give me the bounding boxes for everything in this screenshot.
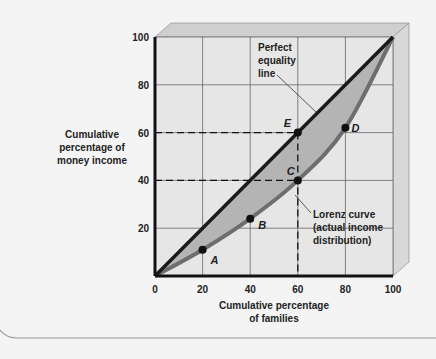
point-b xyxy=(246,215,254,223)
lorenz-annotation: Lorenz curve xyxy=(313,209,376,220)
box-right-face xyxy=(393,23,409,276)
point-label: B xyxy=(258,219,266,231)
point-label: E xyxy=(284,117,292,129)
y-tick: 20 xyxy=(138,223,150,234)
y-axis-label: percentage of xyxy=(59,142,125,153)
x-tick: 0 xyxy=(152,284,158,295)
box-top-face xyxy=(155,23,409,37)
point-e xyxy=(294,129,302,137)
x-tick: 60 xyxy=(292,284,304,295)
x-axis-label: Cumulative percentage xyxy=(219,300,329,311)
y-tick: 80 xyxy=(138,80,150,91)
x-tick: 20 xyxy=(197,284,209,295)
point-label: A xyxy=(210,254,219,266)
x-tick: 80 xyxy=(340,284,352,295)
equality-annotation: Perfect xyxy=(258,42,293,53)
x-axis-label: of families xyxy=(249,313,299,324)
y-axis-label: money income xyxy=(57,155,127,166)
point-label: D xyxy=(351,122,359,134)
equality-annotation: equality xyxy=(258,55,296,66)
x-tick: 100 xyxy=(385,284,402,295)
y-tick: 40 xyxy=(138,175,150,186)
x-tick: 40 xyxy=(245,284,257,295)
equality-annotation: line xyxy=(258,68,276,79)
lorenz-annotation: distribution) xyxy=(313,235,371,246)
y-tick: 100 xyxy=(132,32,149,43)
y-tick: 60 xyxy=(138,128,150,139)
point-d xyxy=(341,124,349,132)
lorenz-annotation: (actual income xyxy=(313,222,383,233)
point-label: C xyxy=(287,165,296,177)
y-axis-label: Cumulative xyxy=(65,129,119,140)
point-c xyxy=(294,176,302,184)
card-border xyxy=(0,330,436,338)
point-a xyxy=(199,246,207,254)
lorenz-chart: ABCDE 02040608010020406080100 Cumulative… xyxy=(0,0,436,359)
